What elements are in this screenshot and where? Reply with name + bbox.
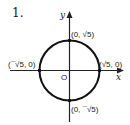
point-left — [38, 69, 42, 73]
point-right — [98, 69, 102, 73]
circle-diagram: y x O (0, √5) (0, ¯√5) (¯√5, 0) (√5, 0) — [0, 0, 130, 125]
right-point-label: (√5, 0) — [99, 60, 122, 69]
point-top — [68, 39, 72, 43]
point-bottom — [68, 99, 72, 103]
origin-label: O — [61, 73, 67, 82]
y-axis-label: y — [59, 10, 66, 20]
x-axis-label: x — [116, 72, 121, 82]
bottom-point-label: (0, ¯√5) — [71, 105, 99, 114]
left-point-label: (¯√5, 0) — [8, 60, 36, 69]
y-axis-arrow-icon — [67, 11, 73, 18]
top-point-label: (0, √5) — [71, 30, 94, 39]
